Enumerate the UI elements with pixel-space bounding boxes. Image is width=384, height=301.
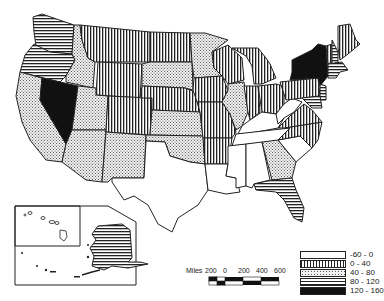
- legend-item: 0 - 40: [300, 259, 384, 268]
- legend-swatch-blank: [300, 251, 346, 259]
- state-co: [106, 96, 152, 135]
- state-ak: [90, 224, 148, 270]
- scale-tick: 0: [223, 267, 227, 274]
- state-fl: [254, 178, 304, 222]
- legend-item: 40 - 80: [300, 268, 384, 277]
- state-ia: [193, 76, 228, 102]
- state-nm: [102, 132, 146, 182]
- scale-tick: 400: [256, 267, 268, 274]
- legend-swatch-vertical: [300, 260, 346, 268]
- scale-tick: 200: [238, 267, 250, 274]
- state-nd: [150, 32, 192, 62]
- state-sd: [142, 62, 193, 90]
- scale-tick: 600: [274, 267, 286, 274]
- state-nj: [320, 84, 326, 100]
- legend-label: 120 - 160: [350, 286, 384, 295]
- legend-swatch-dots: [300, 269, 346, 277]
- legend-swatch-horizontal: [300, 278, 346, 286]
- state-me: [338, 24, 360, 60]
- legend: -60 - 0 0 - 40 40 - 80 80 - 120 120 - 16…: [300, 250, 384, 295]
- legend-label: 0 - 40: [350, 259, 370, 268]
- state-az: [62, 130, 106, 182]
- legend-item: 120 - 160: [300, 286, 384, 295]
- legend-label: 40 - 80: [350, 268, 375, 277]
- legend-item: 80 - 120: [300, 277, 384, 286]
- scale-tick: 200: [205, 267, 217, 274]
- inset-alaska-hawaii: [15, 206, 148, 285]
- state-mt: [80, 25, 150, 62]
- legend-item: -60 - 0: [300, 250, 384, 259]
- legend-label: 80 - 120: [350, 277, 379, 286]
- legend-label: -60 - 0: [350, 250, 373, 259]
- scale-bar: [209, 277, 279, 285]
- legend-swatch-solid: [300, 287, 346, 295]
- state-ks: [150, 110, 203, 136]
- state-ma: [328, 62, 348, 78]
- contiguous-us: [16, 14, 360, 232]
- state-nh: [332, 40, 338, 64]
- state-wy: [96, 62, 142, 98]
- scale-unit: Miles: [186, 267, 202, 274]
